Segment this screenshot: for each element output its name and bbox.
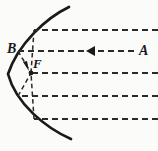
incident-direction-arrow-icon xyxy=(86,46,95,56)
diagram-canvas xyxy=(0,0,158,151)
concave-mirror-curve xyxy=(8,7,71,139)
incident-ray-group xyxy=(18,30,158,119)
incident-ray-label-a: A xyxy=(139,44,148,58)
focus-point-marker xyxy=(29,71,34,76)
reflected-direction-arrow-icon xyxy=(23,61,29,71)
mirror-point-label-b: B xyxy=(7,42,16,56)
focus-label-f: F xyxy=(33,57,42,70)
reflected-ray-3 xyxy=(18,73,31,96)
mirror-focus-diagram: A B F xyxy=(0,0,158,151)
